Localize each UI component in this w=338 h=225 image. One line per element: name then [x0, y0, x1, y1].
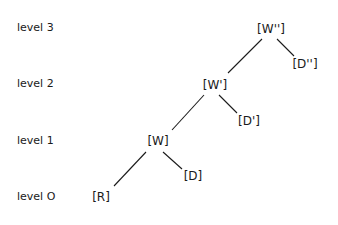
node-w: [W] — [147, 134, 168, 148]
level-label-0: level O — [17, 190, 56, 203]
node-r: [R] — [92, 190, 110, 204]
node-d-prime: [D'] — [238, 114, 260, 128]
node-d: [D] — [184, 169, 203, 183]
level-label-3: level 3 — [17, 21, 54, 34]
edge-w0-r — [114, 152, 146, 186]
edge-w2-w1 — [228, 39, 262, 73]
edge-w1-w0 — [172, 95, 204, 130]
node-w-double-prime: [W''] — [257, 22, 285, 36]
diagram-svg: level 3 level 2 level 1 level O [W''] [D… — [0, 0, 338, 225]
level-label-1: level 1 — [17, 134, 54, 147]
level-label-2: level 2 — [17, 77, 54, 90]
edge-w1-d1 — [219, 95, 237, 113]
edge-w0-d0 — [163, 152, 182, 169]
node-d-double-prime: [D''] — [292, 57, 317, 71]
edge-w2-d2 — [277, 39, 294, 56]
node-w-prime: [W'] — [203, 78, 228, 92]
level-tree-diagram: level 3 level 2 level 1 level O [W''] [D… — [0, 0, 338, 225]
